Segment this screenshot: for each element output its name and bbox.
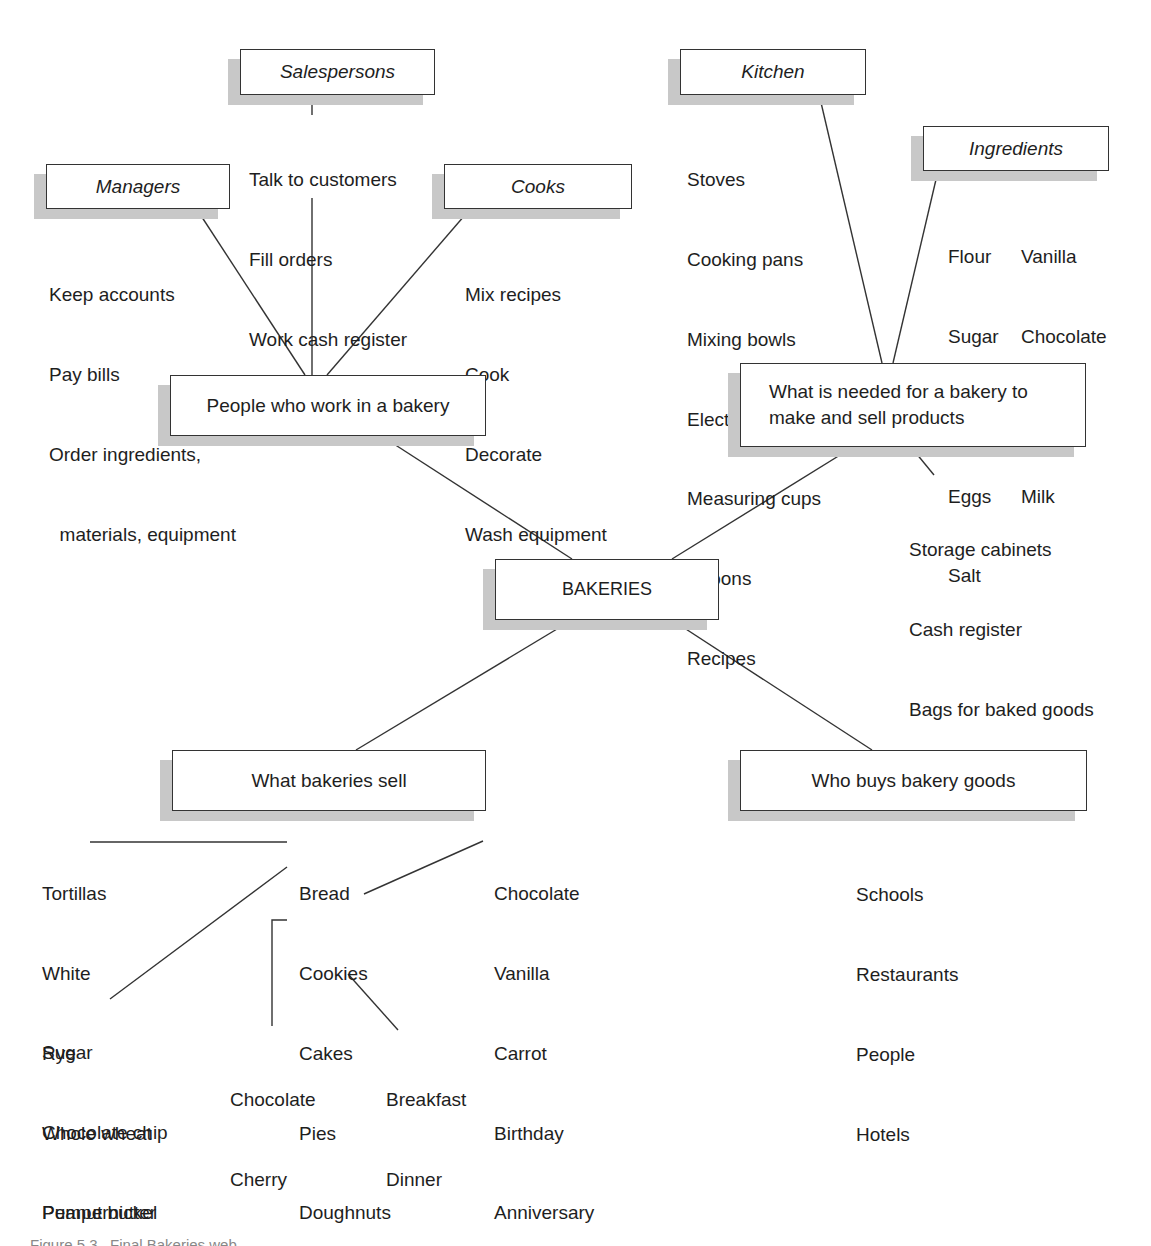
node-managers-label: Managers xyxy=(96,176,181,198)
node-ingredients: Ingredients xyxy=(923,126,1109,171)
node-kitchen: Kitchen xyxy=(680,49,866,95)
node-kitchen-label: Kitchen xyxy=(741,61,804,83)
node-cooks: Cooks xyxy=(444,164,632,209)
cake-types: Chocolate Vanilla Carrot Birthday Annive… xyxy=(494,828,649,1246)
list-item: Storage cabinets xyxy=(909,537,1094,564)
list-item: Cook xyxy=(465,362,607,389)
node-salespersons: Salespersons xyxy=(240,49,435,95)
list-item: Breakfast xyxy=(386,1087,496,1114)
list-item: Chocolate chip xyxy=(42,1120,188,1147)
salespersons-tasks: Talk to customers Fill orders Work cash … xyxy=(249,114,407,380)
list-item: Chocolate xyxy=(230,1087,349,1114)
node-who-buys: Who buys bakery goods xyxy=(740,750,1087,811)
list-item: Order ingredients, xyxy=(49,442,236,469)
list-item: Fill orders xyxy=(249,247,407,274)
cookie-types: Sugar Chocolate chip Peanut butter Ginge… xyxy=(42,987,188,1246)
list-item: Vanilla xyxy=(1021,244,1107,271)
list-item: Cherry xyxy=(230,1167,349,1194)
list-item: Sugar xyxy=(42,1040,188,1067)
list-item: Schools xyxy=(856,882,958,909)
node-buyers-label: Who buys bakery goods xyxy=(812,770,1016,792)
list-item: Carrot xyxy=(494,1041,649,1068)
list-item: Mix recipes xyxy=(465,282,607,309)
list-item: Mixing bowls xyxy=(687,327,821,354)
list-item: Bread xyxy=(299,881,391,908)
list-item: Recipes xyxy=(687,646,821,673)
node-managers: Managers xyxy=(46,164,230,209)
list-item: Chocolate xyxy=(1021,324,1107,351)
list-item: Work cash register xyxy=(249,327,407,354)
list-item: Hotels xyxy=(856,1122,958,1149)
list-item: Cooking pans xyxy=(687,247,821,274)
list-item: Measuring cups xyxy=(687,486,821,513)
node-what-is-needed: What is needed for a bakery to make and … xyxy=(740,363,1086,447)
node-people-label: People who work in a bakery xyxy=(207,395,450,417)
list-item: Sugar xyxy=(948,324,999,351)
roll-types: Breakfast Dinner Whole wheat Potato Cres… xyxy=(386,1034,496,1246)
list-item: Peanut butter xyxy=(42,1200,188,1227)
node-needed-label-line2: make and sell products xyxy=(769,405,1028,431)
node-salespersons-label: Salespersons xyxy=(280,61,395,83)
buyer-list: Schools Restaurants People Hotels xyxy=(856,829,958,1175)
list-item: Chocolate xyxy=(494,881,649,908)
list-item: Wash equipment xyxy=(465,522,607,549)
list-item: Restaurants xyxy=(856,962,958,989)
list-item: materials, equipment xyxy=(49,522,236,549)
node-sell-label: What bakeries sell xyxy=(251,770,406,792)
list-item: Dinner xyxy=(386,1167,496,1194)
list-item: Bags for baked goods xyxy=(909,697,1094,724)
cooks-tasks: Mix recipes Cook Decorate Wash equipment xyxy=(465,229,607,575)
figure-caption: Figure 5.3 Final Bakeries web xyxy=(30,1236,237,1246)
list-item: Decorate xyxy=(465,442,607,469)
node-bakeries-center: BAKERIES xyxy=(495,559,719,620)
list-item: Anniversary xyxy=(494,1200,649,1227)
list-item: Flour xyxy=(948,244,999,271)
list-item: White xyxy=(42,961,157,988)
node-people-who-work: People who work in a bakery xyxy=(170,375,486,436)
list-item: Keep accounts xyxy=(49,282,236,309)
node-ingredients-label: Ingredients xyxy=(969,138,1063,160)
list-item: Stoves xyxy=(687,167,821,194)
pie-types: Chocolate Cherry Apple Pumpkin Lemon chi… xyxy=(230,1034,349,1246)
node-what-bakeries-sell: What bakeries sell xyxy=(172,750,486,811)
node-bakeries-label: BAKERIES xyxy=(562,579,652,600)
needed-other-items: Storage cabinets Cash register Bags for … xyxy=(909,484,1094,750)
list-item: People xyxy=(856,1042,958,1069)
list-item: Vanilla xyxy=(494,961,649,988)
node-needed-label-line1: What is needed for a bakery to xyxy=(769,379,1028,405)
node-cooks-label: Cooks xyxy=(511,176,565,198)
list-item: Birthday xyxy=(494,1121,649,1148)
list-item: Cash register xyxy=(909,617,1094,644)
list-item: Tortillas xyxy=(42,881,157,908)
list-item: Cookies xyxy=(299,961,391,988)
list-item: Talk to customers xyxy=(249,167,407,194)
